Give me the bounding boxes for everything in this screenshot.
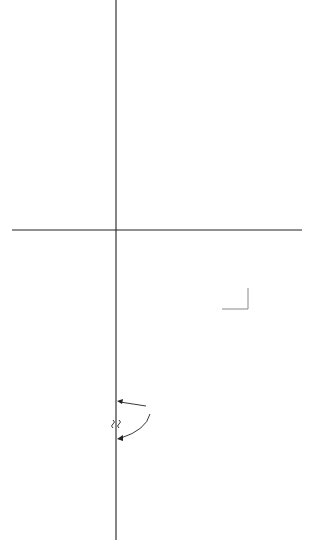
arrowhead-2: [117, 435, 123, 441]
intrinsic-pk-arrow-2: [121, 414, 150, 438]
arrowhead-1: [117, 399, 123, 404]
chart-figure: [0, 0, 313, 552]
intrinsic-pk-arrow-1: [120, 402, 146, 406]
slope-triangle: [222, 288, 248, 309]
